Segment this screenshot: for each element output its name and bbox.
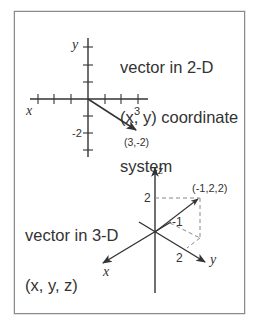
component-label-z: 2 <box>144 191 151 205</box>
tick-label-y-neg2: -2 <box>72 127 82 139</box>
caption-3d-line-2: (x, y, z) <box>25 277 119 294</box>
caption-3d: vector in 3-D (x, y, z) coordinate syste… <box>25 194 119 328</box>
caption-2d-line-3: system <box>120 158 238 175</box>
caption-2d-line-1: vector in 2-D <box>120 59 238 76</box>
y-axis-label-3d: y <box>208 252 217 267</box>
component-label-x: -1 <box>172 215 183 229</box>
caption-2d: vector in 2-D (x, y) coordinate system <box>120 26 238 191</box>
component-label-y: 2 <box>176 251 183 265</box>
caption-2d-line-2: (x, y) coordinate <box>120 109 238 126</box>
y-axis-label-2d: y <box>70 37 79 52</box>
caption-3d-line-1: vector in 3-D <box>25 227 119 244</box>
x-axis-label-2d: x <box>25 103 33 118</box>
